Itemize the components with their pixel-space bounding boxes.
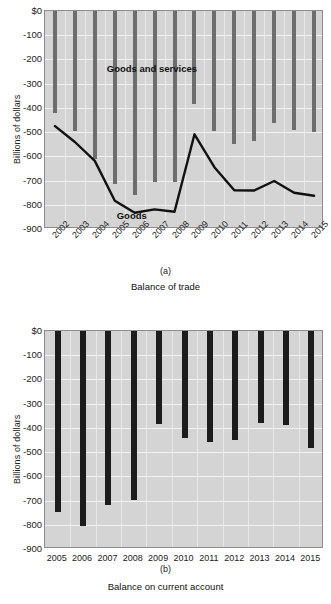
x-tick-label: 2005 (47, 553, 67, 563)
x-tick-label: 2012 (224, 553, 244, 563)
bar (80, 331, 86, 526)
bar (156, 331, 162, 424)
line-series-goods (45, 11, 323, 228)
bar (182, 331, 188, 438)
gridline-vertical (248, 331, 249, 547)
y-tick-label: -400 (23, 101, 42, 112)
y-tick-label: $0 (31, 325, 42, 336)
y-tick-label: -700 (23, 174, 42, 185)
bar (131, 331, 137, 500)
gridline-vertical (172, 331, 173, 547)
y-tick-label: -100 (23, 349, 42, 360)
figure-balance-on-current-account: Billions of dollars $0-100-200-300-400-5… (0, 300, 331, 604)
panel-id-b: (b) (0, 564, 331, 574)
y-tick-label: -300 (23, 77, 42, 88)
x-tick-label: 2008 (123, 553, 143, 563)
y-tick-label: -100 (23, 29, 42, 40)
gridline-vertical (121, 331, 122, 547)
y-tick-label: -900 (23, 223, 42, 234)
y-tick-label: -500 (23, 126, 42, 137)
x-tick-label: 2009 (148, 553, 168, 563)
x-tick-label: 2007 (97, 553, 117, 563)
y-axis-ticks-b: $0-100-200-300-400-500-600-700-800-900 (8, 330, 42, 548)
caption-b: Balance on current account (0, 581, 331, 592)
gridline-horizontal (45, 525, 322, 526)
figure-balance-of-trade: Billions of dollars $0-100-200-300-400-5… (0, 0, 331, 300)
bar (258, 331, 264, 423)
bar (283, 331, 289, 425)
y-tick-label: -300 (23, 397, 42, 408)
gridline-horizontal (45, 452, 322, 453)
y-axis-ticks-a: $0-100-200-300-400-500-600-700-800-900 (8, 10, 42, 228)
gridline-vertical (146, 331, 147, 547)
x-tick-label: 2015 (300, 553, 320, 563)
gridline-vertical (96, 331, 97, 547)
y-tick-label: -600 (23, 150, 42, 161)
bar (105, 331, 111, 505)
bar (232, 331, 238, 440)
x-tick-label: 2011 (199, 553, 218, 563)
y-tick-label: -400 (23, 421, 42, 432)
gridline-horizontal (45, 476, 322, 477)
bar (55, 331, 61, 512)
panel-id-a: (a) (0, 266, 331, 276)
y-tick-label: -700 (23, 494, 42, 505)
x-tick-label: 2013 (250, 553, 270, 563)
x-tick-label: 2014 (275, 553, 295, 563)
y-tick-label: -800 (23, 198, 42, 209)
gridline-horizontal (45, 501, 322, 502)
annotation-goods-and-services: Goods and services (107, 63, 197, 74)
gridline-vertical (273, 331, 274, 547)
gridline-vertical (70, 331, 71, 547)
x-tick-label: 2006 (72, 553, 92, 563)
y-tick-label: -900 (23, 543, 42, 554)
y-tick-label: $0 (31, 5, 42, 16)
plot-area-balance-on-current-account (44, 330, 323, 548)
plot-area-balance-of-trade: Goods and services Goods (44, 10, 323, 228)
gridline-vertical (299, 331, 300, 547)
caption-a: Balance of trade (0, 281, 331, 292)
gridline-vertical (223, 331, 224, 547)
x-tick-label: 2010 (173, 553, 193, 563)
y-tick-label: -500 (23, 446, 42, 457)
gridline-vertical (197, 331, 198, 547)
bar (308, 331, 314, 448)
y-tick-label: -800 (23, 518, 42, 529)
y-tick-label: -200 (23, 53, 42, 64)
y-tick-label: -200 (23, 373, 42, 384)
y-tick-label: -600 (23, 470, 42, 481)
bar (207, 331, 213, 442)
